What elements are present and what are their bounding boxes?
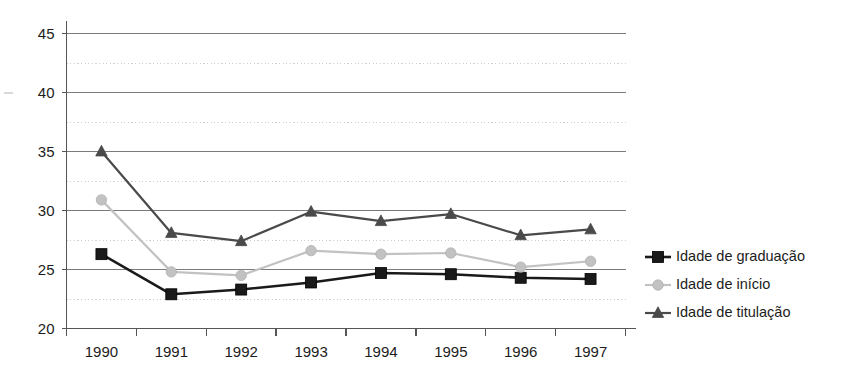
square-marker bbox=[375, 268, 386, 279]
series-3 bbox=[96, 145, 597, 245]
line-chart: 202530354045 199019911992199319941995199… bbox=[0, 0, 846, 387]
x-tick-label: 1990 bbox=[85, 343, 118, 360]
square-marker bbox=[653, 252, 664, 263]
x-tick-label: 1991 bbox=[155, 343, 188, 360]
circle-marker bbox=[306, 245, 316, 255]
y-tick-label: 35 bbox=[38, 143, 55, 160]
square-marker bbox=[236, 284, 247, 295]
square-marker bbox=[306, 277, 317, 288]
square-marker bbox=[445, 269, 456, 280]
legend-item-1[interactable]: Idade de graduação bbox=[645, 248, 805, 264]
circle-marker bbox=[515, 262, 525, 272]
triangle-marker bbox=[445, 208, 456, 219]
triangle-marker bbox=[96, 145, 107, 156]
x-tick-label: 1993 bbox=[294, 343, 327, 360]
series-layer bbox=[96, 145, 597, 299]
x-axis bbox=[67, 329, 636, 336]
legend-item-2[interactable]: Idade de início bbox=[645, 276, 770, 292]
y-axis bbox=[62, 21, 67, 329]
chart-canvas: 202530354045 199019911992199319941995199… bbox=[0, 0, 846, 387]
square-marker bbox=[166, 289, 177, 300]
series-line bbox=[101, 152, 590, 242]
y-tick-label: 20 bbox=[38, 320, 55, 337]
circle-marker bbox=[96, 195, 106, 205]
scan-artifact bbox=[4, 92, 13, 94]
circle-marker bbox=[653, 280, 663, 290]
y-tick-label: 40 bbox=[38, 84, 55, 101]
y-tick-label: 25 bbox=[38, 261, 55, 278]
x-tick-label: 1995 bbox=[434, 343, 467, 360]
legend-item-3[interactable]: Idade de titulação bbox=[645, 304, 790, 320]
minor-gridlines bbox=[67, 63, 626, 299]
legend-label: Idade de titulação bbox=[676, 304, 790, 320]
y-tick-labels: 202530354045 bbox=[38, 25, 55, 337]
legend-label: Idade de graduação bbox=[676, 248, 805, 264]
circle-marker bbox=[236, 270, 246, 280]
triangle-marker bbox=[585, 223, 596, 234]
y-tick-label: 30 bbox=[38, 202, 55, 219]
x-tick-labels: 19901991199219931994199519961997 bbox=[85, 343, 608, 360]
circle-marker bbox=[585, 256, 595, 266]
square-marker bbox=[96, 249, 107, 260]
square-marker bbox=[515, 272, 526, 283]
x-tick-label: 1994 bbox=[364, 343, 397, 360]
legend: Idade de graduaçãoIdade de inícioIdade d… bbox=[645, 248, 805, 320]
circle-marker bbox=[446, 248, 456, 258]
x-tick-label: 1992 bbox=[225, 343, 258, 360]
x-tick-label: 1996 bbox=[504, 343, 537, 360]
x-tick-label: 1997 bbox=[574, 343, 607, 360]
legend-label: Idade de início bbox=[676, 276, 770, 292]
circle-marker bbox=[166, 267, 176, 277]
y-tick-label: 45 bbox=[38, 25, 55, 42]
circle-marker bbox=[376, 249, 386, 259]
square-marker bbox=[585, 273, 596, 284]
